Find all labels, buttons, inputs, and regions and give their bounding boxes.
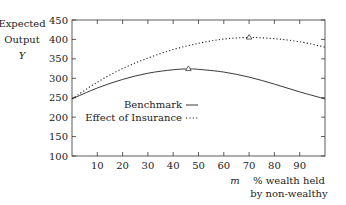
series-lines <box>72 34 325 98</box>
svg-text:Effect of Insurance: Effect of Insurance <box>85 112 182 123</box>
legend: BenchmarkEffect of Insurance <box>85 99 198 123</box>
x-tick-label: 20 <box>116 160 129 171</box>
y-tick-label: 100 <box>49 151 68 162</box>
x-tick-label: 10 <box>91 160 104 171</box>
svg-text:m: m <box>230 175 239 186</box>
y-tick-label: 250 <box>49 92 68 103</box>
x-tick-label: 70 <box>243 160 256 171</box>
x-axis-label: m% wealth heldby non-wealthy <box>230 175 328 199</box>
chart: ExpectedOutputY 100150200250300350400450… <box>0 0 346 205</box>
y-tick-label: 450 <box>49 15 68 26</box>
svg-text:% wealth held: % wealth held <box>253 175 326 186</box>
svg-text:by non-wealthy: by non-wealthy <box>250 188 328 199</box>
x-tick-label: 60 <box>217 160 230 171</box>
x-axis-ticks: 102030405060708090 <box>91 20 306 171</box>
peak-marker-icon <box>186 66 192 71</box>
y-tick-label: 200 <box>49 112 68 123</box>
svg-text:Output: Output <box>4 34 40 45</box>
svg-text:Expected: Expected <box>0 18 46 29</box>
y-tick-label: 350 <box>49 53 68 64</box>
x-tick-label: 50 <box>192 160 205 171</box>
x-tick-label: 80 <box>268 160 281 171</box>
y-tick-label: 400 <box>49 34 68 45</box>
x-tick-label: 30 <box>142 160 155 171</box>
y-tick-label: 150 <box>49 131 68 142</box>
peak-marker-icon <box>246 34 252 39</box>
y-axis-ticks: 100150200250300350400450 <box>49 15 325 162</box>
y-axis-label: ExpectedOutputY <box>0 18 46 61</box>
svg-text:Benchmark: Benchmark <box>124 99 183 110</box>
x-tick-label: 40 <box>167 160 180 171</box>
insurance-line <box>72 37 325 98</box>
y-tick-label: 300 <box>49 73 68 84</box>
x-tick-label: 90 <box>293 160 306 171</box>
svg-text:Y: Y <box>19 50 27 61</box>
benchmark-line <box>72 69 325 99</box>
